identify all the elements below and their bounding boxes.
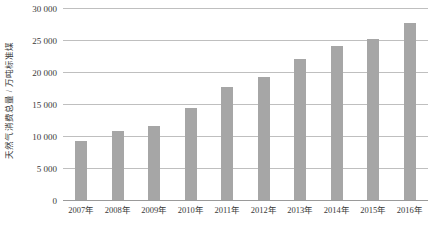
y-axis-tick-label: 30 000 — [32, 4, 57, 14]
bar[interactable] — [185, 108, 197, 200]
x-axis-labels: 2007年2008年2009年2010年2011年2012年2013年2014年… — [63, 203, 428, 221]
y-axis-title-label: 天然气消费总量 / 万吨标准煤 — [5, 41, 14, 159]
x-axis-tick-label: 2007年 — [63, 203, 100, 215]
bar[interactable] — [75, 141, 87, 200]
y-axis-tick-label: 25 000 — [32, 36, 57, 46]
y-axis-tick-label: 10 000 — [32, 132, 57, 142]
bar[interactable] — [367, 39, 379, 200]
bar-slot — [63, 8, 100, 200]
x-axis-tick-label: 2009年 — [136, 203, 173, 215]
x-axis-tick-label: 2012年 — [246, 203, 283, 215]
bar[interactable] — [258, 77, 270, 200]
x-axis-tick-label: 2011年 — [209, 203, 246, 215]
y-axis-title: 天然气消费总量 / 万吨标准煤 — [0, 0, 18, 200]
bar-slot — [319, 8, 356, 200]
bar[interactable] — [221, 87, 233, 200]
bar[interactable] — [148, 126, 160, 200]
bar-slot — [209, 8, 246, 200]
x-axis-tick-label: 2008年 — [100, 203, 137, 215]
bars-layer — [63, 8, 428, 200]
bar-slot — [173, 8, 210, 200]
x-axis-tick-label: 2010年 — [173, 203, 210, 215]
bar-slot — [392, 8, 429, 200]
y-axis-tick-label: 15 000 — [32, 100, 57, 110]
x-axis-tick-label: 2015年 — [355, 203, 392, 215]
y-axis-tick-label: 20 000 — [32, 68, 57, 78]
bar-slot — [100, 8, 137, 200]
bar[interactable] — [331, 46, 343, 200]
x-axis-line: 0 — [63, 200, 428, 201]
bar[interactable] — [404, 23, 416, 200]
bar-slot — [355, 8, 392, 200]
plot-area: 05 00010 00015 00020 00025 00030 000 — [63, 8, 428, 200]
x-axis-tick-label: 2013年 — [282, 203, 319, 215]
y-axis-tick-label: 0 — [53, 196, 58, 206]
x-axis-tick-label: 2014年 — [319, 203, 356, 215]
bar-slot — [136, 8, 173, 200]
bar[interactable] — [294, 59, 306, 200]
bar[interactable] — [112, 131, 124, 200]
bar-chart: 天然气消费总量 / 万吨标准煤 05 00010 00015 00020 000… — [0, 0, 436, 237]
y-axis-tick-label: 5 000 — [37, 164, 57, 174]
bar-slot — [282, 8, 319, 200]
bar-slot — [246, 8, 283, 200]
x-axis-tick-label: 2016年 — [392, 203, 429, 215]
